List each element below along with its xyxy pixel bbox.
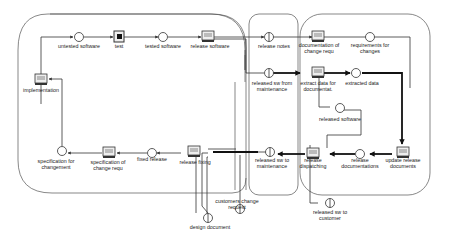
transition-implementation[interactable] [35,74,47,85]
label-released-sw-to-maintenance: released sw to maintenance [255,157,289,170]
interface-released-sw-from-maintenance[interactable] [265,69,274,78]
place-specification-for-changement[interactable] [58,147,67,156]
label-fixed-release: fixed release [137,156,167,162]
transition-release-fixing[interactable] [188,146,200,157]
label-test: test [115,43,124,49]
transition-specification-of-change-requ[interactable] [103,147,115,158]
transition-release-software[interactable] [202,31,214,42]
label-extracted-data: extracted data [345,80,379,86]
transition-documentation-of-change-requ[interactable] [312,31,324,42]
label-released-sw-from-maintenance: released sw from maintenance [252,80,292,93]
interface-released-sw-to-customer[interactable] [326,199,335,208]
label-implementation: implementation [23,87,59,93]
place-extracted-data[interactable] [352,69,361,78]
label-extract-data: extract data for documentat. [300,80,335,93]
label-specification-for-changement: specification for changement [38,158,75,171]
place-tested-software[interactable] [159,33,168,42]
place-requirements-for-changes[interactable] [366,33,375,42]
transition-extract-data[interactable] [312,67,324,78]
label-release-fixing: release fixing [179,159,210,165]
label-design-document: design document [190,224,230,230]
transition-test[interactable] [114,31,124,42]
interface-design-document[interactable] [204,214,213,223]
label-update-release-documents: update release documents [385,157,420,170]
label-released-sw-to-customer: released sw to customer [313,209,347,222]
label-release-notes: release notes [258,43,290,49]
place-released-software[interactable] [336,104,345,113]
interface-release-notes[interactable] [265,33,274,42]
interface-released-sw-to-maintenance[interactable] [266,148,275,157]
label-documentation-of-change-requ: documentation of change requ [299,42,340,55]
label-release-software: release software [191,43,230,49]
place-untested-software[interactable] [75,33,84,42]
label-release-dispatching: release dispatching [300,157,327,170]
label-requirements-for-changes: requirements for changes [351,42,390,55]
label-tested-software: tested software [145,43,181,49]
label-released-software: released software [319,116,361,122]
label-customers-change-request: customers change request [215,198,258,211]
label-untested-software: untested software [58,43,100,49]
label-specification-of-change-requ: specification of change requ [90,159,125,172]
label-release-documentations: release documentations [341,157,378,170]
